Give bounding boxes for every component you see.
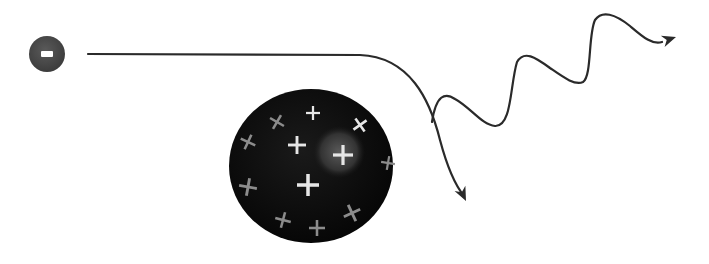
minus-sign-icon [41,51,53,57]
photon-emission [432,14,676,126]
electron [29,36,65,72]
photon-arrowhead-icon [661,36,676,47]
photon-wave [432,14,662,126]
electron-arrowhead-icon [455,186,466,201]
bremsstrahlung-diagram [0,0,709,264]
nucleus-highlight [313,126,365,178]
nucleus [229,89,396,243]
